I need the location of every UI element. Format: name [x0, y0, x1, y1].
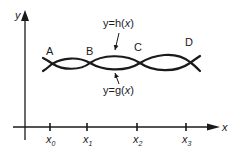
curve-label-h: y=h(x): [103, 17, 134, 29]
y-axis-label: y: [14, 9, 22, 21]
curve-label-g: y=g(x): [103, 84, 134, 96]
tick-label-x1: x1: [82, 133, 93, 147]
point-label-b: B: [86, 45, 93, 57]
tick-label-x2: x2: [132, 133, 143, 147]
point-label-c: C: [134, 41, 142, 53]
diagram-canvas: y x x0 x1 x2 x3 A B C D y=h(x) y=g(x): [0, 0, 235, 154]
tick-label-x0: x0: [45, 133, 56, 147]
x-axis-label: x: [221, 121, 228, 133]
point-label-d: D: [185, 36, 193, 48]
tick-label-x3: x3: [181, 133, 192, 147]
x-axis-arrow-icon: [207, 124, 220, 131]
x-axis: x: [13, 121, 228, 133]
y-axis-arrow-icon: [21, 10, 29, 21]
pointer-g-arrow-icon: [115, 73, 119, 84]
pointer-h-arrow-icon: [115, 33, 119, 50]
y-axis: y: [14, 9, 29, 140]
point-label-a: A: [46, 45, 54, 57]
